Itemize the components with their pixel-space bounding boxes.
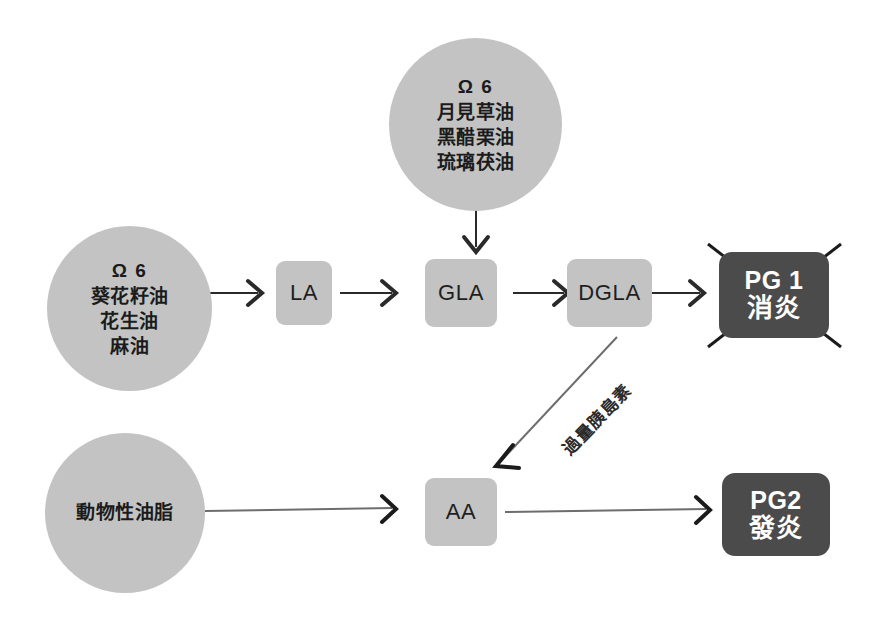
node-source-top-line-2: 黑醋栗油 <box>437 125 515 150</box>
node-gla: GLA <box>425 259 497 327</box>
node-pg1-line-0: PG 1 <box>745 266 804 294</box>
node-source-top-line-3: 琉璃茯油 <box>437 150 515 175</box>
edge-source-bottom-left-to-aa <box>205 496 396 522</box>
node-pg2-line-0: PG2 <box>750 486 802 514</box>
node-source-bottom-left-line-0: 動物性油脂 <box>76 500 174 525</box>
edge-la-to-gla <box>340 281 396 305</box>
edge-gla-to-dgla <box>513 281 568 305</box>
node-source-bottom-left: 動物性油脂 <box>45 433 205 593</box>
node-pg2: PG2 發炎 <box>722 473 830 556</box>
node-la: LA <box>276 261 332 325</box>
edge-aa-to-pg2 <box>505 497 710 523</box>
node-aa-label: AA <box>446 499 477 525</box>
edge-dgla-to-pg1 <box>650 281 704 305</box>
node-source-top: Ω 6 月見草油 黑醋栗油 琉璃茯油 <box>389 38 562 211</box>
node-pg2-line-1: 發炎 <box>749 514 803 543</box>
node-pg1: PG 1 消炎 <box>719 252 829 338</box>
node-source-left-line-2: 花生油 <box>100 309 159 334</box>
node-aa: AA <box>425 478 497 546</box>
node-source-left: Ω 6 葵花籽油 花生油 麻油 <box>47 226 212 391</box>
node-source-left-line-0: Ω 6 <box>112 258 148 283</box>
node-source-top-line-0: Ω 6 <box>458 74 494 99</box>
edge-source-left-to-la <box>210 281 262 305</box>
node-dgla: DGLA <box>567 259 652 327</box>
node-source-left-line-3: 麻油 <box>110 334 149 359</box>
node-source-top-line-1: 月見草油 <box>437 100 515 125</box>
node-gla-label: GLA <box>438 280 484 306</box>
node-la-label: LA <box>290 280 318 306</box>
node-dgla-label: DGLA <box>578 280 640 306</box>
pathway-diagram: Ω 6 月見草油 黑醋栗油 琉璃茯油 Ω 6 葵花籽油 花生油 麻油 動物性油脂… <box>0 0 877 618</box>
node-pg1-line-1: 消炎 <box>747 294 801 323</box>
node-source-left-line-1: 葵花籽油 <box>91 284 169 309</box>
